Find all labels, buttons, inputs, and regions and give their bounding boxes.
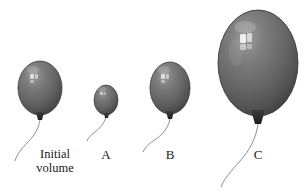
balloon-initial-body xyxy=(18,61,62,115)
balloon-b-knot xyxy=(166,111,174,119)
balloon-initial xyxy=(15,61,62,161)
balloon-initial-knot xyxy=(36,112,44,120)
label-initial-volume: Initial volume xyxy=(22,147,88,176)
label-b: B xyxy=(163,148,177,162)
label-c: C xyxy=(251,148,265,162)
label-a: A xyxy=(99,148,113,162)
balloon-b xyxy=(143,62,190,152)
balloon-a xyxy=(87,85,118,141)
balloon-a-body xyxy=(94,85,118,115)
balloon-c-body xyxy=(218,10,298,116)
balloon-c-knot xyxy=(251,110,265,124)
label-initial-volume-line2: volume xyxy=(36,161,74,175)
label-initial-volume-line1: Initial xyxy=(40,147,70,161)
balloon-b-body xyxy=(150,62,190,114)
balloon-a-knot xyxy=(104,113,109,118)
balloon-volume-figure: Initial volume A B C xyxy=(0,0,307,194)
balloon-a-string xyxy=(87,117,106,141)
